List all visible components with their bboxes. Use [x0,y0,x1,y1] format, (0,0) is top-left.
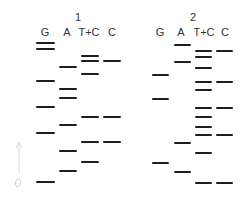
gel-band [216,134,233,136]
lane-label: C [221,26,229,38]
gel-band [195,89,212,91]
lane-label: C [108,26,116,38]
gel-band [195,50,212,52]
gel-band [81,116,99,118]
gel-band [81,161,99,163]
gel-number-2: 2 [190,11,196,23]
gel-band [216,50,233,52]
gel-band [152,98,169,100]
gel-band [103,60,121,62]
gel-band [36,42,55,44]
gel-band [195,81,212,83]
gel-band [59,150,77,152]
lane-label: T+C [78,26,99,38]
gel-band [174,142,191,144]
gel-band [59,124,77,126]
gel-band [81,60,99,62]
gel-band [195,67,212,69]
gel-band [36,132,55,134]
lane-label: G [156,26,165,38]
gel-band [103,116,121,118]
gel-band [59,66,77,68]
gel-band [195,134,212,136]
pencil-arrow-annotation [12,140,26,190]
gel-band [36,48,55,50]
gel-band [152,74,169,76]
gel-band [195,116,212,118]
gel-band [216,182,233,184]
lane-label: G [41,26,50,38]
gel-band [59,88,77,90]
gel-band [152,162,169,164]
gel-band [195,126,212,128]
gel-band [81,55,99,57]
gel-band [174,44,191,46]
gel-band [59,170,77,172]
gel-band [195,107,212,109]
gel-band [81,141,99,143]
gel-band [195,56,212,58]
gel-number-1: 1 [75,11,81,23]
gel-band [36,80,55,82]
lane-label: A [63,26,70,38]
lane-label: A [177,26,184,38]
gel-band [81,73,99,75]
sequencing-gel-figure: 1GAT+CC2GAT+CC [0,0,248,198]
gel-band [103,141,121,143]
lane-label: T+C [193,26,214,38]
gel-band [36,106,55,108]
gel-band [216,81,233,83]
gel-band [195,152,212,154]
gel-band [59,97,77,99]
gel-band [174,61,191,63]
gel-band [174,171,191,173]
gel-band [195,182,212,184]
gel-band [216,107,233,109]
gel-band [36,181,55,183]
